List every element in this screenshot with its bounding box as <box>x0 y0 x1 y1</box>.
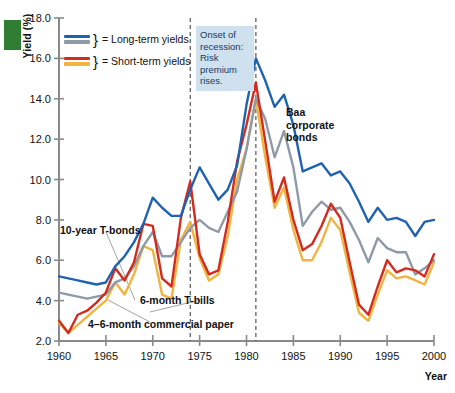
chart-figure: Yield (%) Year 18.016.014.012.010.08.06.… <box>0 0 455 393</box>
legend-label-long-term: = Long-term yields <box>102 33 189 45</box>
legend-item-short-term: } = Short-term yields <box>64 50 190 72</box>
legend-brace-long: } <box>93 32 98 47</box>
legend-label-short-term: = Short-term yields <box>102 55 190 67</box>
legend-swatch-tbonds <box>64 40 90 44</box>
series-line-6-month-t-bills <box>59 99 434 333</box>
recession-annotation: Onset of recession: Risk premium rises. <box>196 26 254 91</box>
legend-swatch-short-term <box>64 57 90 66</box>
series-label-tbills: 6-month T-bills <box>140 294 215 306</box>
legend-item-long-term: } = Long-term yields <box>64 28 190 50</box>
legend-swatch-baa <box>64 35 90 39</box>
chart-legend: } = Long-term yields } = Short-term yiel… <box>64 28 190 72</box>
legend-swatch-tbills <box>64 62 90 66</box>
legend-swatch-commercial-paper <box>64 57 90 61</box>
series-label-tbonds: 10-year T-bonds <box>60 224 141 236</box>
legend-brace-short: } <box>93 54 98 69</box>
series-line-baa-corporate-bonds <box>59 58 434 284</box>
series-label-commercial-paper: 4–6-month commercial paper <box>88 318 234 330</box>
legend-swatch-long-term <box>64 35 90 44</box>
series-label-baa: Baacorporatebonds <box>286 106 334 144</box>
